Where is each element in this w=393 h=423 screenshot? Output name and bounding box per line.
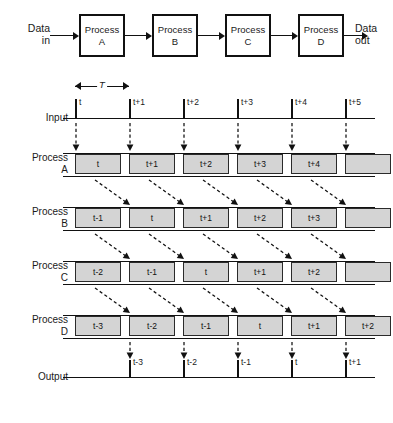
- arrow-head-icon: [123, 306, 130, 313]
- arrow-head-icon: [289, 145, 296, 152]
- arrow-head-icon: [339, 306, 346, 313]
- arrow-input-to-a: [284, 115, 300, 159]
- process-box-title: Process: [231, 24, 265, 36]
- arrow-head-icon: [289, 353, 296, 360]
- arrow-head-icon: [127, 145, 134, 152]
- process-box-letter: A: [99, 36, 105, 48]
- arrow-head-icon: [292, 32, 298, 40]
- arrow-shaft: [271, 35, 293, 36]
- input-tick-label: t+4: [295, 98, 307, 107]
- arrow-input-to-a: [176, 115, 192, 159]
- arrow-head-icon: [285, 198, 292, 205]
- process-a-label: Process A: [6, 152, 68, 175]
- arrow-head-icon: [123, 252, 130, 259]
- arrow-head-icon: [146, 32, 152, 40]
- process-box-letter: B: [172, 36, 178, 48]
- input-baseline: [63, 118, 375, 119]
- arrow-d-to-output: [338, 334, 354, 367]
- process-box-letter: C: [245, 36, 252, 48]
- arrow-shaft: [50, 35, 74, 36]
- process-box-c: ProcessC: [225, 14, 271, 57]
- arrow-stage-2-to-3: [141, 280, 192, 321]
- arrow-shaft: [198, 35, 220, 36]
- period-label: T: [97, 79, 107, 90]
- arrow-stage-2-to-3: [195, 280, 246, 321]
- arrow-head-icon: [73, 145, 80, 152]
- arrow-d-to-output: [122, 334, 138, 367]
- arrow-stage-1-to-2: [87, 226, 138, 267]
- arrow-head-icon: [343, 145, 350, 152]
- arrow-stage-1-to-2: [249, 226, 300, 267]
- arrow-input-to-a: [122, 115, 138, 159]
- output-row-label: Output: [6, 371, 68, 383]
- arrow-d-to-output: [230, 334, 246, 367]
- arrow-head-icon: [177, 198, 184, 205]
- arrow-stage-1-to-2: [141, 226, 192, 267]
- arrow-head-icon: [343, 353, 350, 360]
- process-b-label: Process B: [6, 206, 68, 229]
- arrow-head-icon: [231, 306, 238, 313]
- arrow-d-to-output: [284, 334, 300, 367]
- arrow-head-icon: [339, 252, 346, 259]
- arrow-stage-0-to-1: [87, 172, 138, 213]
- period-marker: T: [75, 81, 129, 91]
- input-tick-label: t+5: [349, 98, 361, 107]
- arrow-head-icon: [181, 145, 188, 152]
- arrow-shaft: [344, 35, 363, 36]
- arrow-head-icon: [219, 32, 225, 40]
- arrow-box-0: [125, 31, 152, 40]
- arrow-head-icon: [177, 252, 184, 259]
- input-tick-label: t+3: [241, 98, 253, 107]
- arrow-stage-0-to-1: [303, 172, 354, 213]
- arrow-box-1: [198, 31, 225, 40]
- pipeline-timing-figure: Data in Data out ProcessAProcessBProcess…: [0, 0, 393, 423]
- process-d-label: Process D: [6, 314, 68, 337]
- arrow-head-icon: [231, 252, 238, 259]
- output-baseline: [63, 377, 375, 378]
- arrow-data-out: [344, 31, 368, 40]
- process-box-b: ProcessB: [152, 14, 198, 57]
- arrow-head-icon: [123, 198, 130, 205]
- process-d-rail-bottom: [63, 338, 375, 339]
- arrow-shaft: [125, 35, 147, 36]
- process-box-title: Process: [158, 24, 192, 36]
- arrow-head-icon: [127, 353, 134, 360]
- arrow-head-icon: [339, 198, 346, 205]
- arrow-stage-1-to-2: [303, 226, 354, 267]
- arrow-stage-2-to-3: [303, 280, 354, 321]
- arrow-head-icon: [285, 306, 292, 313]
- process-box-title: Process: [304, 24, 338, 36]
- data-in-label: Data in: [8, 22, 50, 46]
- process-box-d: ProcessD: [298, 14, 344, 57]
- arrow-stage-2-to-3: [87, 280, 138, 321]
- arrow-stage-0-to-1: [195, 172, 246, 213]
- process-c-label: Process C: [6, 260, 68, 283]
- arrow-head-icon: [235, 145, 242, 152]
- arrow-head-icon: [362, 32, 368, 40]
- process-box-letter: D: [318, 36, 325, 48]
- arrow-d-to-output: [176, 334, 192, 367]
- input-tick-label: t+2: [187, 98, 199, 107]
- arrow-input-to-a: [68, 115, 84, 159]
- input-tick-label: t+1: [133, 98, 145, 107]
- period-arrow-right: [123, 82, 129, 90]
- process-box-a: ProcessA: [79, 14, 125, 57]
- pipeline-block-diagram: Data in Data out ProcessAProcessBProcess…: [0, 0, 393, 78]
- arrow-head-icon: [177, 306, 184, 313]
- input-row-label: Input: [6, 112, 68, 124]
- timing-diagram: T Input tt+1t+2t+3t+4t+5 Process Att+1t+…: [0, 78, 393, 423]
- arrow-stage-1-to-2: [195, 226, 246, 267]
- arrow-head-icon: [231, 198, 238, 205]
- arrow-box-2: [271, 31, 298, 40]
- arrow-head-icon: [73, 32, 79, 40]
- input-tick-label: t: [79, 98, 81, 107]
- arrow-stage-0-to-1: [141, 172, 192, 213]
- arrow-stage-2-to-3: [249, 280, 300, 321]
- process-box-title: Process: [85, 24, 119, 36]
- arrow-data-in: [50, 31, 79, 40]
- arrow-head-icon: [235, 353, 242, 360]
- arrow-head-icon: [285, 252, 292, 259]
- period-arrow-left: [75, 82, 81, 90]
- arrow-input-to-a: [230, 115, 246, 159]
- arrow-head-icon: [181, 353, 188, 360]
